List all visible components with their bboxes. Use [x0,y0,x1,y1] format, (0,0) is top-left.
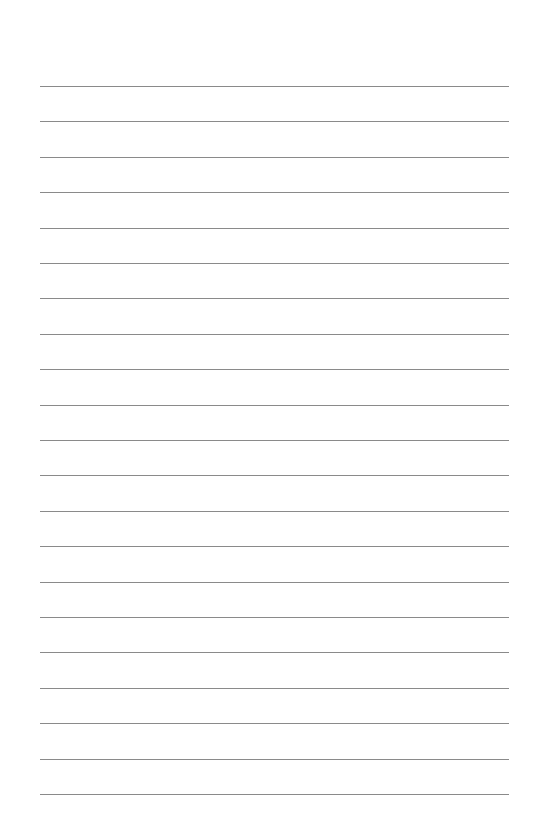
ruled-line [40,298,509,299]
ruled-line [40,759,509,760]
ruled-line [40,652,509,653]
ruled-line [40,723,509,724]
ruled-line [40,511,509,512]
lined-paper-page [0,0,535,824]
ruled-line [40,794,509,795]
ruled-line [40,121,509,122]
ruled-line [40,334,509,335]
ruled-line [40,617,509,618]
ruled-line [40,86,509,87]
ruled-line [40,228,509,229]
ruled-line [40,405,509,406]
ruled-line [40,582,509,583]
ruled-line [40,192,509,193]
ruled-line [40,546,509,547]
ruled-line [40,475,509,476]
ruled-line [40,157,509,158]
ruled-line [40,263,509,264]
ruled-line [40,688,509,689]
ruled-line [40,440,509,441]
ruled-line [40,369,509,370]
